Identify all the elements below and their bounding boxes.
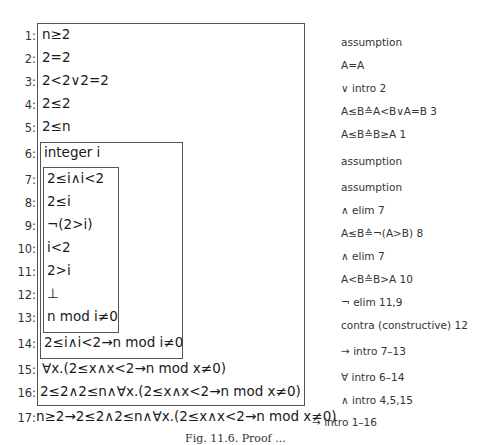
- formula: 2≤i∧i<2: [47, 170, 104, 186]
- justification: ∨ intro 2: [341, 82, 386, 94]
- justification: assumption: [341, 181, 402, 193]
- line-number: 11:: [0, 265, 36, 279]
- justification: ∧ elim 7: [341, 204, 385, 216]
- line-number: 8:: [0, 196, 36, 210]
- line-number: 13:: [0, 311, 36, 325]
- justification: A≤B≙B≥A 1: [341, 128, 406, 140]
- justification: A<B≙B>A 10: [341, 273, 413, 285]
- formula: n≥2: [42, 26, 70, 42]
- justification: assumption: [341, 155, 402, 167]
- formula: 2≤i: [47, 193, 71, 209]
- justification: assumption: [341, 36, 402, 48]
- line-number: 6:: [0, 147, 36, 161]
- line-number: 12:: [0, 288, 36, 302]
- figure-caption: Fig. 11.6. Proof ...: [185, 432, 286, 445]
- justification: → intro 7–13: [341, 345, 406, 357]
- line-number: 14:: [0, 337, 36, 351]
- line-number: 7:: [0, 173, 36, 187]
- formula: n mod i≠0: [47, 308, 118, 324]
- formula: ¬(2>i): [47, 216, 93, 232]
- line-number: 4:: [0, 98, 36, 112]
- line-number: 16:: [0, 386, 36, 400]
- formula: 2<2∨2=2: [42, 72, 109, 88]
- formula: 2=2: [42, 49, 71, 65]
- justification: ∀ intro 6–14: [341, 371, 404, 383]
- formula: 2≤i∧i<2→n mod i≠0: [44, 334, 183, 350]
- line-number: 17:: [0, 411, 36, 425]
- justification: A≤B≙A<B∨A=B 3: [341, 105, 437, 117]
- justification: ∧ intro 4,5,15: [341, 394, 413, 406]
- formula: i<2: [47, 239, 71, 255]
- formula: 2≤2: [42, 95, 71, 111]
- justification: ∧ elim 7: [341, 250, 385, 262]
- justification: contra (constructive) 12: [341, 319, 468, 331]
- formula: ⊥: [47, 285, 59, 301]
- formula: integer i: [44, 144, 100, 160]
- line-number: 5:: [0, 121, 36, 135]
- line-number: 3:: [0, 75, 36, 89]
- formula: 2≤2∧2≤n∧∀x.(2≤x∧x<2→n mod x≠0): [40, 383, 301, 399]
- line-number: 1:: [0, 29, 36, 43]
- justification: A=A: [341, 59, 364, 71]
- formula: 2>i: [47, 262, 71, 278]
- line-number: 15:: [0, 363, 36, 377]
- justification: ¬ elim 11,9: [341, 296, 402, 308]
- formula: 2≤n: [42, 118, 70, 134]
- line-number: 2:: [0, 52, 36, 66]
- justification: A≤B≙¬(A>B) 8: [341, 227, 423, 239]
- line-number: 10:: [0, 242, 36, 256]
- formula: ∀x.(2≤x∧x<2→n mod x≠0): [42, 360, 226, 376]
- formula: n≥2→2≤2∧2≤n∧∀x.(2≤x∧x<2→n mod x≠0): [36, 408, 337, 424]
- line-number: 9:: [0, 219, 36, 233]
- justification: → intro 1–16: [312, 416, 377, 428]
